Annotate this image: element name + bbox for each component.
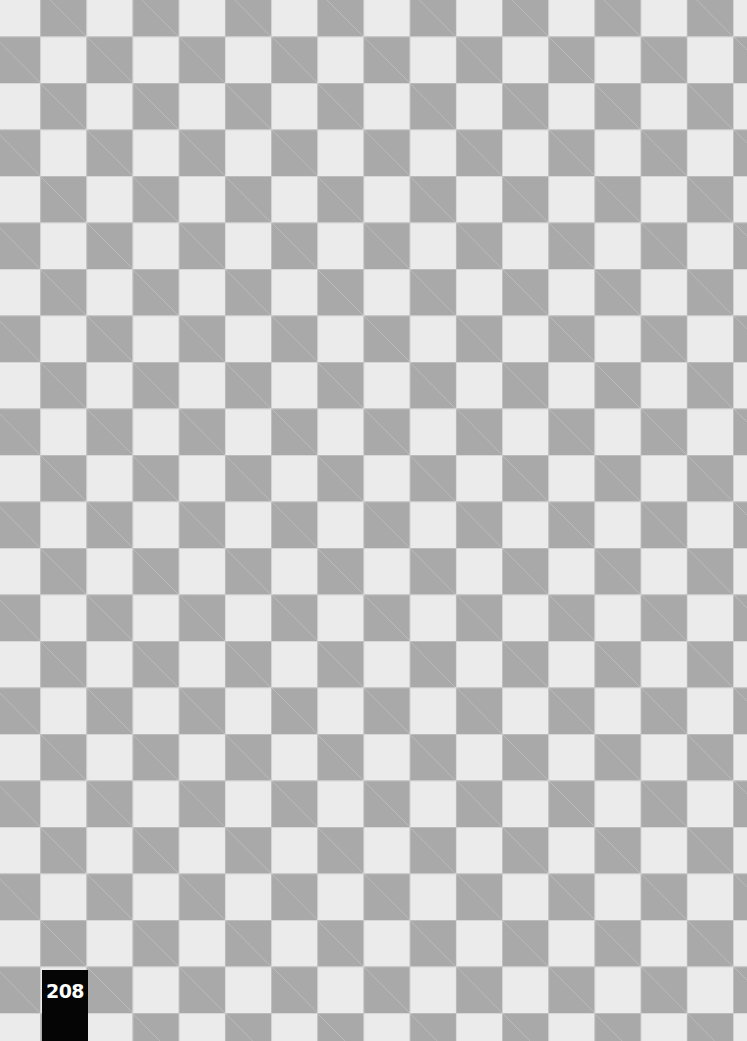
checkerboard-page: 208 (0, 0, 747, 1041)
page-number-box: 208 (42, 970, 88, 1041)
checkerboard-grid (0, 0, 747, 1041)
page-number: 208 (42, 980, 88, 1002)
